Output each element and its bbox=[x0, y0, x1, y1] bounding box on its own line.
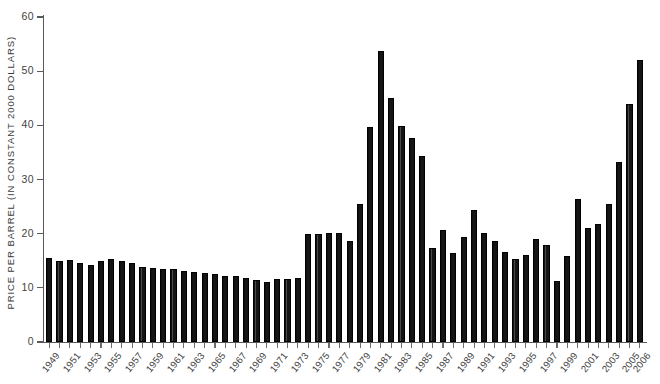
x-tick-1980 bbox=[370, 343, 371, 348]
x-tick-1951 bbox=[69, 343, 70, 348]
bar-1997 bbox=[543, 245, 549, 342]
x-tick-1993 bbox=[505, 343, 506, 348]
x-tick-label-1961: 1961 bbox=[164, 350, 186, 374]
x-tick-label-1949: 1949 bbox=[40, 350, 62, 374]
x-tick-1999 bbox=[567, 343, 568, 348]
y-tick-label-0: 0 bbox=[0, 335, 34, 347]
bar-1981 bbox=[378, 51, 384, 342]
x-tick-1958 bbox=[142, 343, 143, 348]
bar-1959 bbox=[150, 268, 156, 342]
x-tick-1960 bbox=[163, 343, 164, 348]
x-tick-1963 bbox=[194, 343, 195, 348]
bar-1990 bbox=[471, 210, 477, 342]
x-tick-2005 bbox=[629, 343, 630, 348]
x-tick-1962 bbox=[183, 343, 184, 348]
x-tick-1950 bbox=[59, 343, 60, 348]
bar-1986 bbox=[429, 248, 435, 342]
x-tick-label-1969: 1969 bbox=[247, 350, 269, 374]
bar-1953 bbox=[88, 265, 94, 342]
bar-1979 bbox=[357, 204, 363, 342]
bar-1989 bbox=[461, 237, 467, 342]
x-tick-1954 bbox=[100, 343, 101, 348]
bar-1951 bbox=[67, 260, 73, 342]
bar-1999 bbox=[564, 256, 570, 342]
x-tick-1995 bbox=[525, 343, 526, 348]
bar-1982 bbox=[388, 98, 394, 342]
y-tick-label-30: 30 bbox=[0, 173, 34, 185]
bar-1974 bbox=[305, 234, 311, 342]
bar-2000 bbox=[575, 199, 581, 342]
bar-1963 bbox=[191, 272, 197, 342]
bar-2002 bbox=[595, 224, 601, 342]
bar-1971 bbox=[274, 279, 280, 342]
x-tick-label-1991: 1991 bbox=[475, 350, 497, 374]
bar-1972 bbox=[284, 279, 290, 342]
bar-1998 bbox=[554, 281, 560, 342]
x-tick-label-1993: 1993 bbox=[495, 350, 517, 374]
x-tick-1975 bbox=[318, 343, 319, 348]
y-tick-60 bbox=[37, 16, 44, 17]
x-tick-2003 bbox=[608, 343, 609, 348]
x-tick-label-2003: 2003 bbox=[599, 350, 621, 374]
x-tick-1990 bbox=[474, 343, 475, 348]
x-tick-label-2001: 2001 bbox=[578, 350, 600, 374]
bar-1980 bbox=[367, 127, 373, 342]
x-tick-label-1955: 1955 bbox=[102, 350, 124, 374]
bar-1973 bbox=[295, 278, 301, 342]
bar-1994 bbox=[512, 259, 518, 342]
x-tick-label-1971: 1971 bbox=[267, 350, 289, 374]
x-tick-1997 bbox=[546, 343, 547, 348]
bar-1962 bbox=[181, 271, 187, 343]
bar-chart: PRICE PER BARREL (IN CONSTANT 2000 DOLLA… bbox=[0, 0, 660, 384]
y-tick-40 bbox=[37, 125, 44, 126]
bar-1983 bbox=[398, 126, 404, 342]
bar-1966 bbox=[222, 276, 228, 342]
x-tick-1957 bbox=[132, 343, 133, 348]
y-tick-label-40: 40 bbox=[0, 118, 34, 130]
x-tick-2006 bbox=[639, 343, 640, 348]
bar-1978 bbox=[347, 241, 353, 342]
x-tick-1988 bbox=[453, 343, 454, 348]
x-tick-1966 bbox=[225, 343, 226, 348]
x-tick-1973 bbox=[297, 343, 298, 348]
bar-1967 bbox=[233, 276, 239, 342]
x-tick-1955 bbox=[111, 343, 112, 348]
x-tick-label-1985: 1985 bbox=[413, 350, 435, 374]
x-tick-1978 bbox=[349, 343, 350, 348]
bar-1969 bbox=[253, 280, 259, 342]
plot-area bbox=[44, 17, 645, 342]
x-tick-label-1959: 1959 bbox=[143, 350, 165, 374]
x-tick-1984 bbox=[411, 343, 412, 348]
x-tick-label-1983: 1983 bbox=[392, 350, 414, 374]
bar-1961 bbox=[170, 269, 176, 342]
x-tick-label-1957: 1957 bbox=[122, 350, 144, 374]
x-tick-1964 bbox=[204, 343, 205, 348]
bar-1950 bbox=[56, 261, 62, 342]
bar-2005 bbox=[626, 104, 632, 342]
bar-1975 bbox=[315, 234, 321, 342]
y-tick-label-20: 20 bbox=[0, 227, 34, 239]
y-tick-50 bbox=[37, 71, 44, 72]
bar-1952 bbox=[77, 263, 83, 342]
x-tick-1977 bbox=[339, 343, 340, 348]
bar-1985 bbox=[419, 156, 425, 342]
bar-1957 bbox=[129, 263, 135, 342]
bar-1956 bbox=[119, 261, 125, 342]
x-tick-1959 bbox=[152, 343, 153, 348]
x-tick-1965 bbox=[214, 343, 215, 348]
y-tick-20 bbox=[37, 233, 44, 234]
x-tick-2000 bbox=[577, 343, 578, 348]
x-tick-1974 bbox=[308, 343, 309, 348]
x-tick-1991 bbox=[484, 343, 485, 348]
y-tick-30 bbox=[37, 179, 44, 180]
bar-1992 bbox=[492, 241, 498, 342]
x-tick-1971 bbox=[277, 343, 278, 348]
y-tick-label-50: 50 bbox=[0, 64, 34, 76]
x-tick-label-1951: 1951 bbox=[60, 350, 82, 374]
bar-1970 bbox=[264, 282, 270, 342]
x-tick-2002 bbox=[598, 343, 599, 348]
x-tick-1956 bbox=[121, 343, 122, 348]
x-tick-label-1987: 1987 bbox=[433, 350, 455, 374]
bar-1996 bbox=[533, 239, 539, 342]
bar-2003 bbox=[606, 204, 612, 342]
